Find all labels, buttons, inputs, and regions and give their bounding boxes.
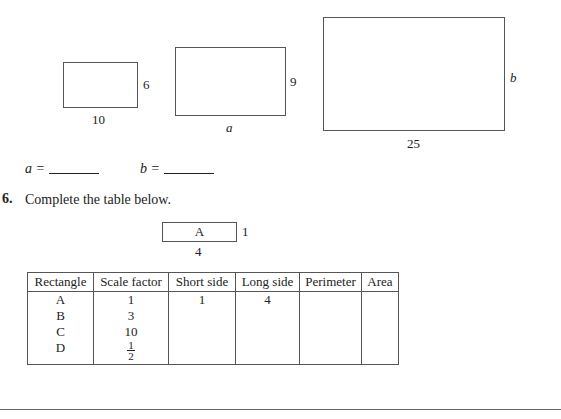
rect-medium-side-label: 9 (290, 75, 297, 89)
cell-short: 1 (169, 292, 236, 309)
rectangle-large (323, 17, 505, 131)
table-row: A 1 1 4 (28, 292, 399, 309)
fraction-one-half: 1 2 (127, 340, 135, 361)
cell-long: 4 (236, 292, 300, 309)
cell-area[interactable] (362, 324, 399, 340)
cell-area[interactable] (362, 292, 399, 309)
cell-long[interactable] (236, 340, 300, 365)
answer-a-label: a = (25, 161, 45, 176)
answer-b-blank[interactable] (164, 161, 214, 174)
table-row: B 3 (28, 308, 399, 324)
cell-perimeter[interactable] (300, 324, 362, 340)
cell-long[interactable] (236, 308, 300, 324)
header-long-side: Long side (236, 273, 300, 292)
table-row: C 10 (28, 324, 399, 340)
header-short-side: Short side (169, 273, 236, 292)
cell-scale: 1 (94, 292, 169, 309)
cell-short[interactable] (169, 308, 236, 324)
answer-a[interactable]: a = (25, 161, 99, 177)
table-header-row: Rectangle Scale factor Short side Long s… (28, 273, 399, 292)
header-area: Area (362, 273, 399, 292)
cell-rectangle: C (28, 324, 94, 340)
rect-a-side-label: 1 (242, 225, 249, 239)
rectangle-a: A (162, 222, 237, 242)
cell-short[interactable] (169, 340, 236, 365)
cell-rectangle: D (28, 340, 94, 365)
rect-medium-bottom-label: a (226, 121, 233, 135)
question-number: 6. (2, 191, 13, 207)
rectangle-small (63, 62, 138, 108)
rect-large-bottom-label: 25 (407, 137, 420, 151)
question-text: Complete the table below. (25, 192, 171, 208)
answer-b-label: b = (140, 161, 160, 176)
header-scale-factor: Scale factor (94, 273, 169, 292)
cell-rectangle: B (28, 308, 94, 324)
answer-b[interactable]: b = (140, 161, 214, 177)
cell-scale: 1 2 (94, 340, 169, 365)
cell-perimeter[interactable] (300, 340, 362, 365)
rect-small-side-label: 6 (143, 78, 150, 92)
rect-a-bottom-label: 4 (195, 245, 202, 259)
scale-factor-table: Rectangle Scale factor Short side Long s… (27, 272, 399, 365)
cell-rectangle: A (28, 292, 94, 309)
rectangle-a-name: A (195, 224, 204, 239)
rectangle-medium (175, 47, 286, 116)
answer-a-blank[interactable] (49, 161, 99, 174)
header-rectangle: Rectangle (28, 273, 94, 292)
cell-perimeter[interactable] (300, 308, 362, 324)
cell-area[interactable] (362, 308, 399, 324)
rect-small-bottom-label: 10 (92, 113, 105, 127)
cell-long[interactable] (236, 324, 300, 340)
cell-area[interactable] (362, 340, 399, 365)
page-divider (0, 409, 561, 410)
rect-large-side-label: b (510, 71, 517, 85)
cell-perimeter[interactable] (300, 292, 362, 309)
header-perimeter: Perimeter (300, 273, 362, 292)
cell-short[interactable] (169, 324, 236, 340)
cell-scale: 3 (94, 308, 169, 324)
fraction-denominator: 2 (127, 351, 135, 361)
table-row: D 1 2 (28, 340, 399, 365)
cell-scale: 10 (94, 324, 169, 340)
